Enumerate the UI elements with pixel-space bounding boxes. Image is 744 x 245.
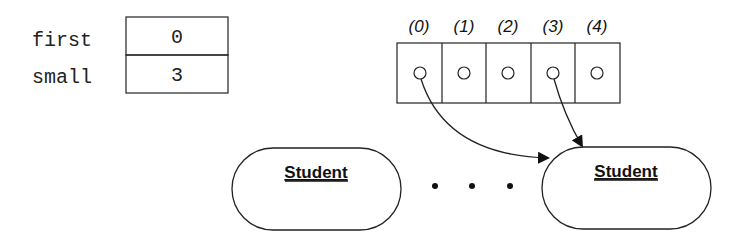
variable-table: first small 0 3 [32, 17, 228, 93]
reference-arrow-3 [554, 79, 582, 146]
array-slot-4-ref [591, 67, 603, 79]
array-index-1: (1) [454, 17, 475, 36]
array-box [397, 43, 620, 103]
diagram: first small 0 3 (0) (1) (2) (3) (4) Stud… [0, 0, 744, 245]
variable-name-first: first [32, 29, 92, 52]
array-index-2: (2) [498, 17, 519, 36]
student-label-right: Student [594, 162, 658, 181]
array-slot-1-ref [458, 67, 470, 79]
student-object-right: Student [542, 147, 711, 229]
variable-name-small: small [32, 66, 92, 89]
array-slot-0-ref [414, 67, 426, 79]
array-index-3: (3) [543, 17, 564, 36]
ellipsis-dots [432, 183, 513, 189]
array-index-0: (0) [409, 17, 430, 36]
variable-value-small: 3 [171, 64, 183, 87]
student-object-left: Student [232, 148, 401, 230]
student-label-left: Student [284, 163, 348, 182]
reference-arrow-0 [421, 79, 548, 158]
reference-array: (0) (1) (2) (3) (4) [397, 17, 620, 103]
array-index-4: (4) [587, 17, 608, 36]
array-slot-2-ref [502, 67, 514, 79]
variable-value-first: 0 [171, 26, 183, 49]
array-slot-3-ref [547, 67, 559, 79]
